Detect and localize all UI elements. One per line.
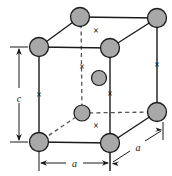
edge-top-back (80, 17, 157, 18)
atom-bottom-front-right (101, 134, 120, 153)
unit-cell-figure: × × × × × × c a (0, 0, 172, 176)
atom-top-front-left (30, 38, 49, 57)
cross-top-face: × (93, 26, 98, 36)
unit-cell-svg: × × × × × × c a (0, 0, 172, 176)
hidden-edge-back-bottom-right (82, 112, 157, 113)
atom-interior-upper (92, 71, 107, 86)
cross-right-edge: × (154, 60, 159, 70)
dim-a-depth-shaft-lower (113, 151, 130, 162)
cross-front-edge: × (107, 89, 112, 99)
dimension-label-c: c (17, 93, 22, 104)
atom-bottom-right-back (148, 103, 167, 122)
edge-bottom-front (39, 142, 110, 143)
atom-interior-lower (74, 105, 90, 121)
atom-top-front-right (101, 39, 120, 58)
cross-left-edge: × (36, 90, 41, 100)
atom-top-back (71, 8, 90, 27)
dimension-label-a-depth: a (136, 142, 141, 153)
dimension-label-a-width: a (72, 158, 77, 169)
dim-a-depth-shaft-upper (145, 131, 161, 141)
dim-a-depth-arrowhead-upper (155, 127, 163, 131)
edge-top-front (39, 47, 110, 48)
atom-bottom-front-left (30, 133, 49, 152)
cross-bottom-face: × (93, 121, 98, 131)
cross-back-edge: × (79, 62, 84, 72)
atom-top-right-back (148, 9, 167, 28)
interior-atoms-group (74, 71, 107, 122)
dim-a-depth-arrowhead-lower (112, 162, 120, 167)
